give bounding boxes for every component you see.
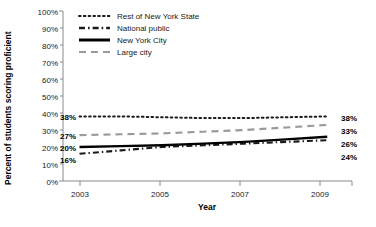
legend-item-large-city[interactable]: Large city [79,48,152,57]
y-tick-label-90: 90% [42,25,58,34]
legend-item-national-public[interactable]: National public [79,24,169,33]
legend-item-rest-of-new-york-state[interactable]: Rest of New York State [79,12,200,21]
end-label-national-public: 24% [341,153,357,162]
x-axis-ticks [80,181,352,186]
legend-item-new-york-city[interactable]: New York City [79,36,167,45]
x-tick-label-2005: 2005 [151,190,169,199]
y-axis-label: Percent of students scoring proficient [3,31,13,185]
y-tick-label-70: 70% [42,59,58,68]
x-tick-label-2007: 2007 [231,190,249,199]
series-line-large-city [80,125,328,135]
chart-container: Percent of students scoring proficient 1… [0,0,376,227]
y-tick-label-60: 60% [42,76,58,85]
end-label-large-city: 33% [341,127,357,136]
x-tick-label-2003: 2003 [71,190,89,199]
start-label-large-city: 27% [60,132,76,141]
y-tick-label-40: 40% [42,110,58,119]
start-label-national-public: 16% [60,156,76,165]
line-chart: Percent of students scoring proficient 1… [0,0,376,227]
series-line-rest-of-new-york-state [80,116,328,118]
y-tick-label-50: 50% [42,93,58,102]
end-label-new-york-city: 26% [341,140,357,149]
end-label-rest-of-new-york-state: 38% [341,114,357,123]
y-tick-label-0: 0% [46,178,58,187]
legend-label-national-public: National public [117,24,169,33]
chart-legend: Rest of New York State National public N… [79,12,200,57]
legend-label-large-city: Large city [117,48,152,57]
legend-label-rest-of-new-york-state: Rest of New York State [117,12,200,21]
y-tick-label-10: 10% [42,161,58,170]
y-tick-label-80: 80% [42,42,58,51]
y-tick-label-100: 100% [38,8,58,17]
legend-label-new-york-city: New York City [117,36,167,45]
x-tick-label-2009: 2009 [311,190,329,199]
x-axis-label: Year [198,202,217,212]
y-tick-label-20: 20% [42,144,58,153]
start-label-rest-of-new-york-state: 38% [60,113,76,122]
start-label-new-york-city: 20% [60,144,76,153]
y-tick-label-30: 30% [42,127,58,136]
